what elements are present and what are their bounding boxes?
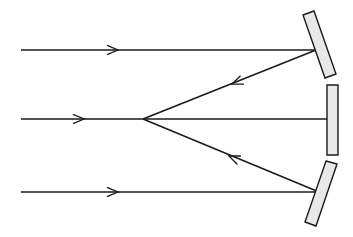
top-reflected-ray [143,50,316,119]
middle-mirror-segment [327,85,338,155]
reflected-arrowheads-group [229,76,244,165]
incident-rays-group [21,50,327,192]
top-mirror-segment [303,11,336,78]
bottom-mirror-segment [305,161,337,226]
optics-ray-diagram [0,0,353,237]
reflected-rays-group [143,50,319,192]
ray-diagram-canvas [0,0,353,237]
incident-arrowheads-group [73,45,118,196]
